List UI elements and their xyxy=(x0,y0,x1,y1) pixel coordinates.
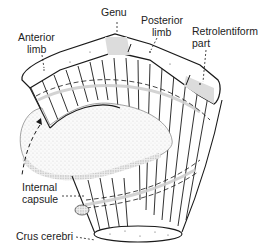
label-retrolentiform-line2: part xyxy=(192,38,210,49)
label-anterior-limb-line1: Anterior xyxy=(18,32,55,43)
label-genu: Genu xyxy=(101,7,127,18)
label-crus-cerebri: Crus cerebri xyxy=(16,231,73,242)
label-posterior-limb-line1: Posterior xyxy=(141,15,183,26)
label-anterior-limb-line2: limb xyxy=(27,44,46,55)
label-internal-capsule-line2: capsule xyxy=(22,194,58,205)
label-retrolentiform-line1: Retrolentiform xyxy=(192,26,258,37)
label-posterior-limb-line2: limb xyxy=(152,27,171,38)
label-internal-capsule-line1: Internal xyxy=(22,182,57,193)
